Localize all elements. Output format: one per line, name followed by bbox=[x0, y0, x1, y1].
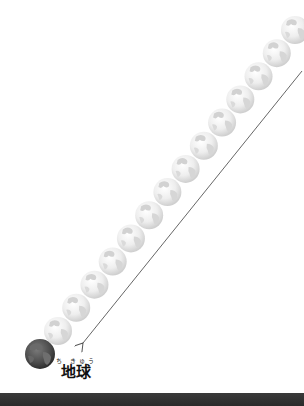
trajectory-arrow bbox=[83, 71, 302, 343]
ghost-globe-icon bbox=[117, 224, 145, 252]
ghost-globe-icon bbox=[226, 85, 254, 113]
ghost-globe-icon bbox=[245, 62, 273, 90]
ghost-globe-sequence bbox=[44, 16, 304, 345]
ghost-globe-icon bbox=[281, 16, 304, 44]
bottom-bar bbox=[0, 393, 304, 406]
ghost-globe-icon bbox=[99, 248, 127, 276]
ghost-globe-icon bbox=[135, 201, 163, 229]
ghost-globe-icon bbox=[190, 132, 218, 160]
ghost-globe-icon bbox=[153, 178, 181, 206]
ghost-globe-icon bbox=[263, 39, 291, 67]
earth-globe-icon bbox=[25, 339, 55, 369]
earth-trajectory-diagram bbox=[0, 0, 304, 406]
ghost-globe-icon bbox=[208, 109, 236, 137]
ghost-globe-icon bbox=[62, 294, 90, 322]
ghost-globe-icon bbox=[172, 155, 200, 183]
ghost-globe-icon bbox=[44, 317, 72, 345]
earth-label: ち きゅう 地球 bbox=[56, 357, 97, 380]
earth-label-text: 地球 bbox=[56, 364, 97, 380]
ghost-globe-icon bbox=[80, 271, 108, 299]
